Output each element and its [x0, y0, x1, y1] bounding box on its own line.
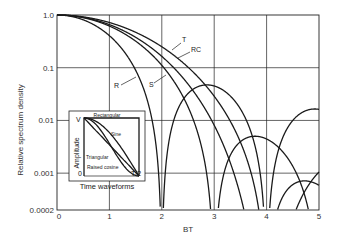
y-axis-label: Relative spectrum density	[16, 84, 25, 176]
label-T: T	[182, 36, 187, 43]
inset-time-waveforms: Rectangular V 0 T/2 Amplitude Time wavef…	[69, 111, 145, 191]
svg-text:1: 1	[107, 212, 112, 221]
svg-text:Time waveforms: Time waveforms	[80, 182, 135, 191]
svg-text:3: 3	[212, 212, 217, 221]
label-RC: RC	[191, 46, 201, 53]
svg-text:Triangular: Triangular	[86, 154, 109, 160]
svg-text:0: 0	[57, 212, 62, 221]
svg-text:Rectangular: Rectangular	[94, 112, 121, 118]
svg-text:0.001: 0.001	[34, 169, 55, 178]
svg-text:4: 4	[264, 212, 269, 221]
label-R: R	[114, 82, 119, 89]
spectrum-chart: 0123451.00.10.010.0010.0002 Relative spe…	[0, 0, 338, 243]
svg-text:Amplitude: Amplitude	[73, 137, 81, 168]
svg-text:1.0: 1.0	[43, 11, 55, 20]
label-S: S	[149, 81, 154, 88]
svg-text:0.1: 0.1	[43, 64, 55, 73]
svg-text:0.01: 0.01	[38, 116, 54, 125]
svg-text:V: V	[76, 116, 81, 123]
svg-text:5: 5	[317, 212, 322, 221]
svg-text:0.0002: 0.0002	[30, 206, 55, 215]
x-axis-label: BT	[183, 225, 193, 234]
svg-text:2: 2	[160, 212, 165, 221]
svg-text:Raised cosine: Raised cosine	[87, 164, 119, 170]
svg-text:0: 0	[78, 170, 82, 177]
